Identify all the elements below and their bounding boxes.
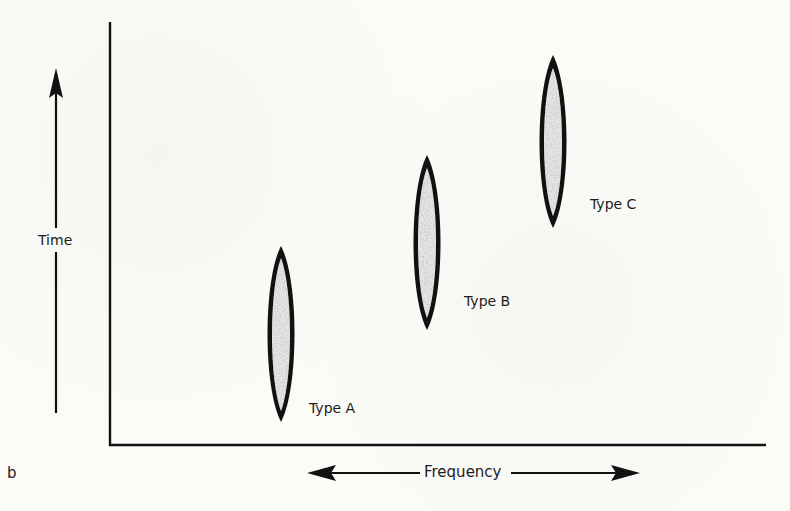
x-axis-label: Frequency xyxy=(424,465,502,480)
panel-letter: b xyxy=(7,466,17,481)
type-a-label: Type A xyxy=(309,401,355,415)
type-c-lens-shape xyxy=(540,55,567,228)
type-a-lens-shape xyxy=(268,246,295,422)
type-b-label: Type B xyxy=(464,294,510,308)
y-axis-label: Time xyxy=(38,233,72,247)
type-c-label: Type C xyxy=(590,197,636,211)
diagram-canvas xyxy=(0,0,790,511)
type-b-lens-shape xyxy=(414,155,441,330)
